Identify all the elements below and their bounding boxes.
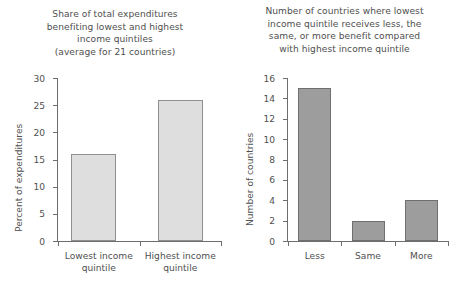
- left-x-label-lowest-line-2: quintile: [65, 262, 133, 274]
- left-x-tick-mid: [140, 241, 141, 246]
- right-chart-title-line-4: with highest income quintile: [228, 43, 461, 56]
- right-y-tick-2: 2: [283, 221, 288, 222]
- right-y-tick-10: 10: [283, 139, 288, 140]
- left-x-tick-start: [58, 241, 59, 246]
- left-y-tick-label-30: 30: [33, 73, 45, 86]
- right-chart-y-axis-label: Number of countries: [245, 133, 255, 226]
- right-y-tick-12: 12: [283, 119, 288, 120]
- right-chart-plot-area: 0 2 4 6 8 10 12 14 16: [287, 78, 448, 242]
- left-chart-title-line-4: (average for 21 countries): [0, 46, 230, 59]
- left-chart-title: Share of total expenditures benefiting l…: [0, 8, 230, 58]
- right-x-label-more: More: [410, 250, 433, 262]
- left-chart-plot-area: 0 5 10 15 20 25 30: [57, 78, 221, 242]
- right-x-label-less: Less: [305, 250, 325, 262]
- right-y-tick-16: 16: [283, 78, 288, 79]
- right-x-label-same: Same: [355, 250, 381, 262]
- right-y-tick-6: 6: [283, 180, 288, 181]
- left-y-tick-label-5: 5: [39, 208, 45, 221]
- bar-highest-income-quintile: [158, 100, 203, 241]
- right-chart-title-line-3: same, or more benefit compared: [228, 30, 461, 43]
- left-x-label-lowest-line-1: Lowest income: [65, 250, 133, 262]
- left-y-tick-label-25: 25: [33, 100, 45, 113]
- left-y-tick-20: 20: [53, 132, 58, 133]
- left-y-tick-15: 15: [53, 160, 58, 161]
- right-y-tick-14: 14: [283, 98, 288, 99]
- right-y-tick-label-6: 6: [269, 174, 275, 187]
- right-x-tick-1: [341, 241, 342, 246]
- left-y-tick-label-0: 0: [39, 236, 45, 249]
- left-y-tick-label-20: 20: [33, 127, 45, 140]
- right-chart-title-line-2: income quintile receives less, the: [228, 18, 461, 31]
- right-y-tick-label-0: 0: [269, 236, 275, 249]
- left-y-tick-label-15: 15: [33, 154, 45, 167]
- left-y-tick-30: 30: [53, 78, 58, 79]
- right-y-tick-label-10: 10: [263, 134, 275, 147]
- right-chart-title-line-1: Number of countries where lowest: [228, 5, 461, 18]
- right-y-tick-label-8: 8: [269, 154, 275, 167]
- right-y-tick-label-12: 12: [263, 113, 275, 126]
- left-y-tick-10: 10: [53, 187, 58, 188]
- right-x-tick-2: [395, 241, 396, 246]
- left-x-label-highest-income-quintile: Highest income quintile: [145, 250, 216, 275]
- left-x-label-lowest-income-quintile: Lowest income quintile: [65, 250, 133, 275]
- left-x-label-highest-line-1: Highest income: [145, 250, 216, 262]
- bar-less: [298, 88, 331, 241]
- two-panel-bar-chart-figure: Share of total expenditures benefiting l…: [0, 0, 461, 284]
- left-x-tick-end: [221, 241, 222, 246]
- left-chart-title-line-2: benefiting lowest and highest: [0, 21, 230, 34]
- right-y-tick-label-2: 2: [269, 215, 275, 228]
- bar-more: [405, 200, 438, 241]
- left-x-label-highest-line-2: quintile: [145, 262, 216, 274]
- left-chart-y-axis-label: Percent of expenditures: [14, 124, 24, 232]
- left-chart-panel: Share of total expenditures benefiting l…: [0, 0, 230, 284]
- right-y-tick-label-14: 14: [263, 93, 275, 106]
- left-y-tick-5: 5: [53, 214, 58, 215]
- left-chart-title-line-1: Share of total expenditures: [0, 8, 230, 21]
- right-y-tick-4: 4: [283, 200, 288, 201]
- right-y-tick-8: 8: [283, 160, 288, 161]
- bar-same: [352, 221, 385, 241]
- right-x-tick-3: [448, 241, 449, 246]
- right-y-tick-label-4: 4: [269, 195, 275, 208]
- right-x-tick-0: [288, 241, 289, 246]
- left-y-tick-25: 25: [53, 105, 58, 106]
- right-chart-title: Number of countries where lowest income …: [228, 5, 461, 55]
- left-y-tick-label-10: 10: [33, 181, 45, 194]
- bar-lowest-income-quintile: [71, 154, 116, 241]
- right-y-tick-label-16: 16: [263, 73, 275, 86]
- left-chart-title-line-3: income quintiles: [0, 33, 230, 46]
